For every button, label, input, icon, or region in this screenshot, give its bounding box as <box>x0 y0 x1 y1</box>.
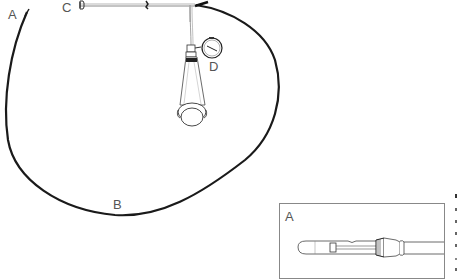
pressure-gauge-icon <box>195 37 222 58</box>
inset-detail-a: A <box>279 203 445 279</box>
label-a: A <box>8 8 17 21</box>
label-b: B <box>113 198 122 211</box>
label-d: D <box>209 60 218 73</box>
valve-icon <box>146 1 148 9</box>
label-c: C <box>62 1 71 14</box>
catheter-tube <box>6 5 279 215</box>
catheter-tip-detail <box>280 204 444 278</box>
connector-assembly <box>80 1 208 22</box>
edge-marks <box>455 194 458 276</box>
syringe <box>177 45 206 126</box>
syringe-tube <box>190 7 191 45</box>
